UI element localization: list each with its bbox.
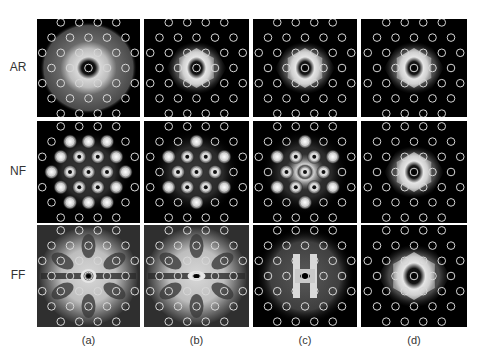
row-label-ff: FF [0, 268, 36, 282]
row-label-nf: NF [0, 164, 36, 178]
col-label-d: (d) [394, 334, 434, 346]
row-label-ar: AR [0, 60, 36, 74]
col-label-b: (b) [177, 334, 217, 346]
panel-ff-c [253, 225, 357, 327]
panel-ff-a [37, 225, 140, 327]
panel-ar-d [361, 19, 467, 117]
panel-ar-a [37, 19, 140, 117]
col-label-a: (a) [69, 334, 109, 346]
panel-nf-b [144, 121, 249, 223]
panel-ff-d [361, 225, 467, 327]
panel-nf-a [37, 121, 140, 223]
panel-ar-b [144, 19, 249, 117]
col-label-c: (c) [285, 334, 325, 346]
panel-ff-b [144, 225, 249, 327]
panel-ar-c [253, 19, 357, 117]
panel-nf-c [253, 121, 357, 223]
panel-nf-d [361, 121, 467, 223]
